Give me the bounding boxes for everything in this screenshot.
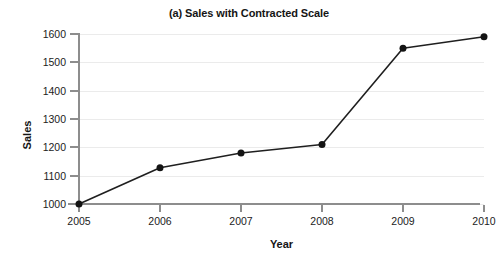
data-point — [400, 45, 407, 52]
series-markers — [76, 33, 488, 207]
chart-figure: (a) Sales with Contracted Scale Sales Ye… — [0, 0, 498, 270]
series-line — [79, 37, 484, 204]
data-point — [76, 201, 83, 208]
data-point — [157, 164, 164, 171]
data-point — [238, 150, 245, 157]
data-series-layer — [0, 0, 498, 270]
data-point — [319, 141, 326, 148]
data-point — [481, 33, 488, 40]
